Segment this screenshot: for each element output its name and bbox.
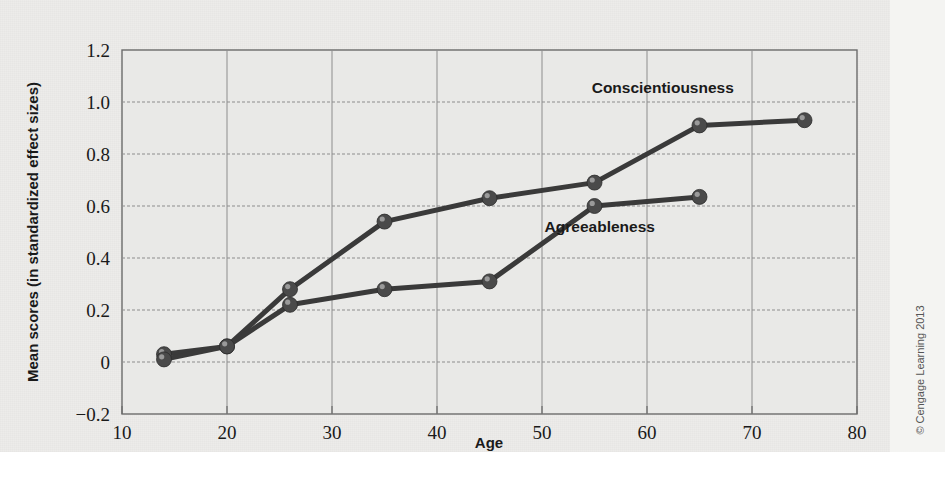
data-point-highlight <box>590 177 595 182</box>
xaxis-tick-label: 20 <box>218 422 237 443</box>
data-point <box>157 352 172 367</box>
data-point <box>692 118 707 133</box>
xaxis-tick-label: 60 <box>638 422 657 443</box>
plot-area <box>122 50 857 414</box>
data-point-highlight <box>695 120 700 125</box>
series-label-agreeableness: Agreeableness <box>545 218 655 235</box>
data-point-highlight <box>285 284 290 289</box>
data-point-highlight <box>485 193 490 198</box>
data-point <box>482 191 497 206</box>
line-chart: −0.200.20.40.60.81.01.2 1020304050607080… <box>0 0 945 488</box>
yaxis-tick-label: 0.2 <box>86 300 110 321</box>
series-label-conscientiousness: Conscientiousness <box>592 79 734 96</box>
data-point <box>377 282 392 297</box>
yaxis-tick-label: 0.6 <box>86 196 110 217</box>
xaxis-tick-label: 70 <box>743 422 762 443</box>
data-point <box>587 175 602 190</box>
data-point <box>220 339 235 354</box>
yaxis-title: Mean scores (in standardized effect size… <box>24 82 41 382</box>
xaxis-tick-label: 80 <box>848 422 867 443</box>
data-point <box>587 199 602 214</box>
xaxis-tick-label: 40 <box>428 422 447 443</box>
data-point-highlight <box>222 341 227 346</box>
data-point <box>283 297 298 312</box>
yaxis-tick-label: 0.8 <box>86 144 110 165</box>
yaxis-tick-label: −0.2 <box>76 404 110 425</box>
xaxis-tick-label: 30 <box>323 422 342 443</box>
data-point-highlight <box>159 354 164 359</box>
data-point-highlight <box>380 216 385 221</box>
yaxis-tick-label: 1.0 <box>86 92 110 113</box>
data-point <box>692 189 707 204</box>
data-point-highlight <box>800 115 805 120</box>
data-point-highlight <box>485 276 490 281</box>
xaxis-title: Age <box>475 434 503 451</box>
copyright-credit: © Cengage Learning 2013 <box>914 305 926 434</box>
data-point <box>797 113 812 128</box>
yaxis-tick-labels: −0.200.20.40.60.81.01.2 <box>76 40 111 425</box>
xaxis-tick-label: 10 <box>113 422 132 443</box>
data-point-highlight <box>695 192 700 197</box>
data-point-highlight <box>285 300 290 305</box>
data-point <box>283 282 298 297</box>
yaxis-tick-label: 0 <box>101 352 111 373</box>
yaxis-tick-label: 0.4 <box>86 248 110 269</box>
data-point <box>377 214 392 229</box>
figure-container: −0.200.20.40.60.81.01.2 1020304050607080… <box>0 0 945 488</box>
data-point-highlight <box>590 201 595 206</box>
xaxis-tick-label: 50 <box>533 422 552 443</box>
yaxis-tick-label: 1.2 <box>86 40 110 61</box>
data-point-highlight <box>380 284 385 289</box>
data-point <box>482 274 497 289</box>
